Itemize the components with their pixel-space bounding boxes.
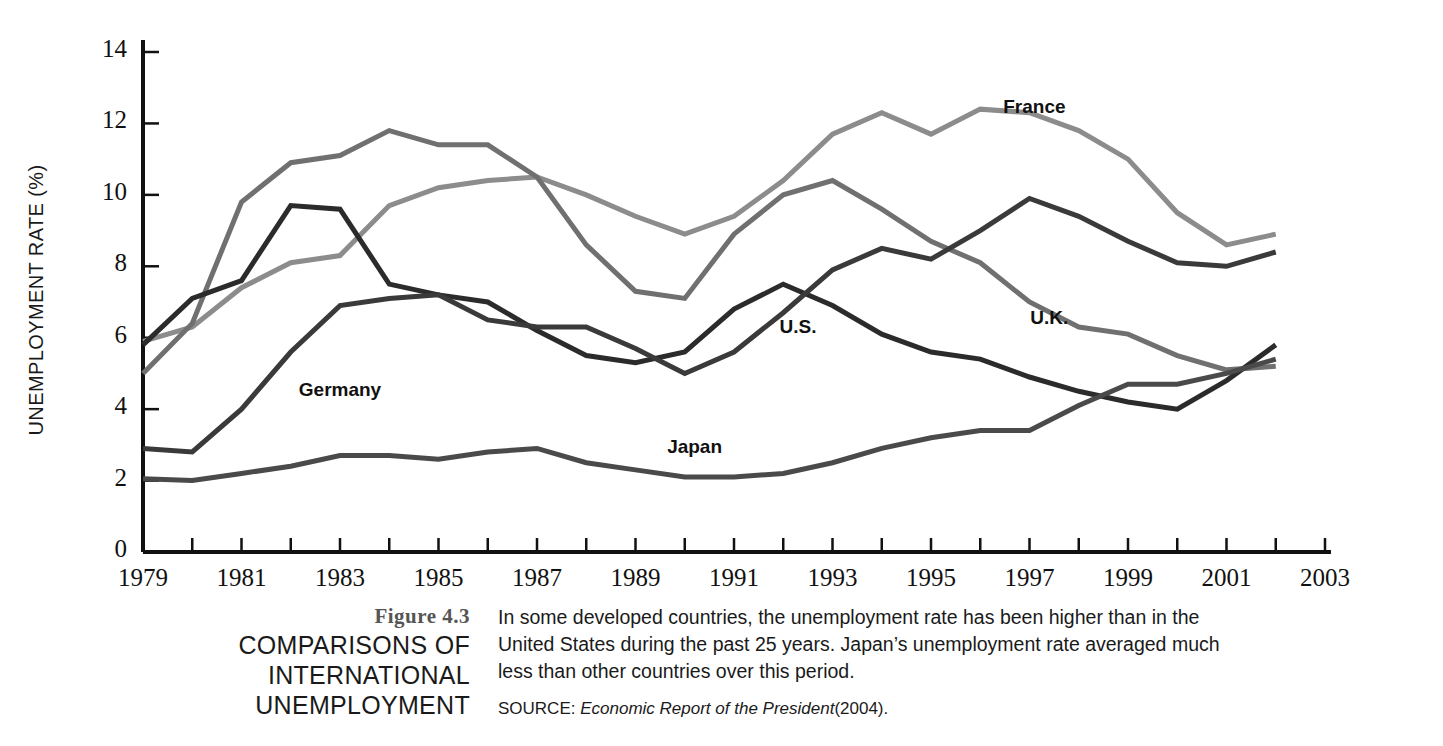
x-tick-label: 2003 (1300, 564, 1350, 592)
series-line-germany (143, 198, 1276, 452)
figure-title-line-2: UNEMPLOYMENT (170, 690, 470, 720)
source-line: SOURCE: Economic Report of the President… (498, 699, 1258, 719)
y-tick-label: 2 (87, 464, 127, 492)
figure-container: UNEMPLOYMENT RATE (%) 02468101214 197919… (0, 0, 1443, 746)
figure-number: Figure 4.3 (170, 602, 470, 630)
y-tick-label: 8 (87, 249, 127, 277)
figure-title: COMPARISONS OFINTERNATIONALUNEMPLOYMENT (170, 630, 470, 720)
y-tick-label: 12 (87, 106, 127, 134)
x-tick-label: 1981 (217, 564, 267, 592)
series-label-germany: Germany (299, 379, 381, 401)
x-tick-label: 1979 (118, 564, 168, 592)
series-label-us: U.S. (780, 316, 817, 338)
x-tick-label: 1987 (512, 564, 562, 592)
series-label-uk: U.K. (1030, 307, 1068, 329)
series-label-france: France (1003, 96, 1065, 118)
x-tick-label: 1995 (906, 564, 956, 592)
series-label-japan: Japan (667, 436, 722, 458)
y-tick-label: 4 (87, 392, 127, 420)
source-label: SOURCE: (498, 699, 575, 718)
figure-title-line-1: INTERNATIONAL (170, 660, 470, 690)
y-tick-label: 6 (87, 321, 127, 349)
caption-block: Figure 4.3 COMPARISONS OFINTERNATIONALUN… (0, 598, 1443, 746)
source-year: (2004). (834, 699, 888, 718)
figure-title-line-0: COMPARISONS OF (170, 630, 470, 660)
caption-body: In some developed countries, the unemplo… (498, 604, 1258, 719)
y-tick-label: 0 (87, 535, 127, 563)
x-tick-label: 1999 (1103, 564, 1153, 592)
series-line-japan (143, 359, 1276, 480)
y-axis-title: UNEMPLOYMENT RATE (%) (25, 164, 48, 435)
series-line-france (143, 109, 1276, 341)
source-title: Economic Report of the President (580, 699, 834, 718)
x-tick-label: 2001 (1202, 564, 1252, 592)
figure-heading: Figure 4.3 COMPARISONS OFINTERNATIONALUN… (170, 602, 470, 720)
x-tick-label: 1991 (709, 564, 759, 592)
caption-paragraph: In some developed countries, the unemplo… (498, 604, 1258, 685)
line-chart-svg (0, 0, 1443, 600)
x-tick-label: 1993 (808, 564, 858, 592)
chart-area: UNEMPLOYMENT RATE (%) 02468101214 197919… (0, 0, 1443, 600)
x-tick-label: 1983 (315, 564, 365, 592)
y-tick-label: 14 (87, 35, 127, 63)
y-tick-label: 10 (87, 178, 127, 206)
x-tick-label: 1989 (611, 564, 661, 592)
x-tick-label: 1997 (1005, 564, 1055, 592)
x-tick-label: 1985 (414, 564, 464, 592)
series-line-uk (143, 131, 1276, 374)
